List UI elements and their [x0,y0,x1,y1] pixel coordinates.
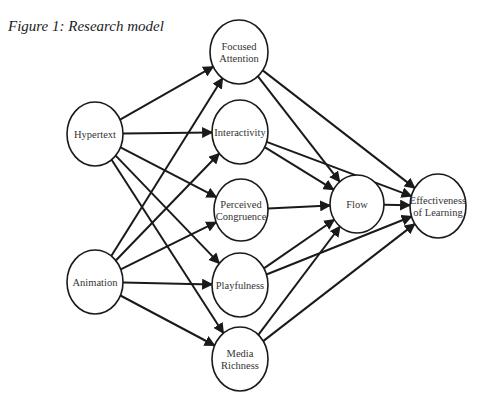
node-label: Playfulness [216,280,264,291]
edge-media-richness-to-flow [258,227,340,335]
node-perceived-congruence: PerceivedCongruence [214,179,268,241]
research-model-diagram: HypertextAnimationFocusedAttentionIntera… [0,0,485,407]
node-label: Interactivity [214,127,266,138]
node-hypertext: Hypertext [67,102,123,166]
node-label: Flow [346,199,368,210]
node-label: Media [227,348,254,359]
node-label: Animation [73,277,119,288]
node-label: of Learning [413,207,463,218]
node-effectiveness: Effectivenessof Learning [410,174,466,238]
edge-focused-attention-to-flow [258,76,340,181]
edge-perceived-congruence-to-flow [268,205,330,208]
node-playfulness: Playfulness [212,253,268,317]
edge-hypertext-to-focused-attention [120,67,213,120]
edge-animation-to-interactivity [116,154,219,261]
node-interactivity: Interactivity [212,100,268,164]
node-flow: Flow [330,175,384,233]
node-label: Perceived [220,199,262,210]
edge-media-richness-to-effectiveness [263,224,415,341]
edge-hypertext-to-interactivity [123,132,212,133]
node-label: Attention [219,53,259,64]
node-label: Focused [222,41,258,52]
edge-animation-to-playfulness [123,283,212,285]
node-label: Effectiveness [410,195,466,206]
node-media-richness: MediaRichness [212,327,268,391]
edge-animation-to-media-richness [120,296,214,346]
edge-flow-to-effectiveness [384,205,410,206]
node-label: Hypertext [74,129,116,140]
node-focused-attention: FocusedAttention [210,20,268,84]
node-label: Congruence [216,211,267,222]
node-animation: Animation [67,250,123,314]
edge-focused-attention-to-effectiveness [263,70,415,188]
node-label: Richness [221,360,259,371]
